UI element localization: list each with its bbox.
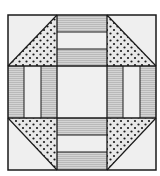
quilt-block-diagram <box>0 0 160 176</box>
light-strip <box>57 32 107 49</box>
cell-bottom-right <box>107 118 156 170</box>
striped-strip <box>41 66 57 118</box>
cell-middle-left <box>8 66 57 118</box>
striped-strip <box>57 152 107 170</box>
cell-middle-right <box>107 66 156 118</box>
cell-top-right <box>107 15 156 66</box>
light-strip <box>24 66 41 118</box>
cell-bottom-center <box>57 118 107 170</box>
striped-strip <box>57 15 107 32</box>
light-strip <box>123 66 140 118</box>
striped-strip <box>57 49 107 66</box>
striped-strip <box>140 66 156 118</box>
cell-center <box>57 66 107 118</box>
cell-top-left <box>8 15 57 66</box>
cell-bottom-left <box>8 118 57 170</box>
striped-strip <box>107 66 123 118</box>
striped-strip <box>8 66 24 118</box>
striped-strip <box>57 118 107 135</box>
light-strip <box>57 135 107 152</box>
cell-top-center <box>57 15 107 66</box>
